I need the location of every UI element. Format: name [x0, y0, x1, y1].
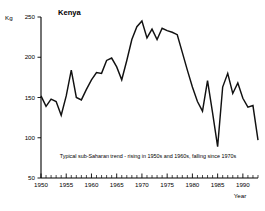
annotation-group: Typical sub-Saharan trend - rising in 19… — [60, 153, 237, 159]
x-tick-label: 1985 — [211, 181, 225, 188]
y-tick-label: 100 — [25, 134, 36, 141]
y-tick-label: 250 — [25, 13, 36, 20]
data-line-kenya — [41, 21, 258, 147]
x-tick-label: 1970 — [135, 181, 149, 188]
x-tick-label: 1980 — [186, 181, 200, 188]
x-axis-ticks: 195019551960196519701975198019851990 — [34, 174, 258, 189]
x-axis-title: Year — [234, 192, 247, 199]
x-tick-label: 1975 — [160, 181, 174, 188]
data-series-group — [41, 21, 258, 147]
x-tick-label: 1950 — [34, 181, 48, 188]
chart-title-group: Kenya — [58, 8, 82, 17]
x-axis-title-group: Year — [234, 192, 247, 199]
x-tick-label: 1960 — [85, 181, 99, 188]
x-tick-label: 1990 — [236, 181, 250, 188]
chart-annotation: Typical sub-Saharan trend - rising in 19… — [60, 153, 237, 159]
x-tick-label: 1955 — [59, 181, 73, 188]
y-axis-ticks: 50100150200250 — [25, 13, 41, 181]
y-axis-unit-label: Kg — [5, 14, 13, 21]
kenya-line-chart: Kenya Kg Year 50100150200250 19501955196… — [0, 0, 265, 211]
x-tick-label: 1965 — [110, 181, 124, 188]
y-axis-unit-group: Kg — [5, 14, 13, 21]
y-tick-label: 150 — [25, 94, 36, 101]
chart-title: Kenya — [58, 8, 82, 17]
chart-container: Kenya Kg Year 50100150200250 19501955196… — [0, 0, 265, 211]
y-tick-label: 200 — [25, 53, 36, 60]
